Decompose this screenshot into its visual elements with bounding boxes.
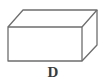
top-face xyxy=(8,10,97,27)
box-label: D xyxy=(0,64,106,81)
front-face xyxy=(8,27,82,61)
